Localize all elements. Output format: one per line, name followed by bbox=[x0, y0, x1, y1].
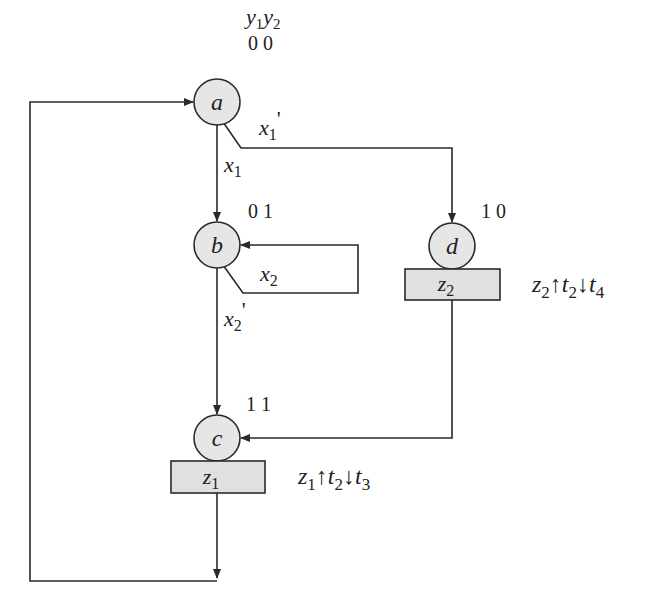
edge-d-to-c bbox=[241, 300, 452, 438]
state-code-header: y1y2 bbox=[244, 4, 281, 32]
label-a-to-d: x1' bbox=[258, 106, 281, 143]
state-code-d: 1 0 bbox=[481, 200, 506, 222]
state-a: a bbox=[194, 79, 240, 125]
state-label-c: c bbox=[212, 425, 223, 451]
state-code-a: 0 0 bbox=[248, 32, 273, 54]
state-label-b: b bbox=[211, 232, 223, 258]
label-a-to-b: x1 bbox=[223, 152, 242, 180]
annotation-c: z1↑t2↓t3 bbox=[297, 463, 370, 494]
annotation-d: z2↑t2↓t4 bbox=[531, 271, 605, 302]
label-b-self-loop: x2 bbox=[259, 261, 278, 289]
edge-b-self-loop bbox=[223, 245, 358, 293]
state-b: b bbox=[194, 222, 240, 268]
asm-diagram: y1y2 0 0 0 1 1 1 1 0 a b c d bbox=[0, 0, 653, 607]
state-label-d: d bbox=[446, 233, 459, 259]
state-c: c bbox=[194, 415, 240, 461]
edge-c-to-a bbox=[30, 102, 217, 581]
state-label-a: a bbox=[211, 89, 223, 115]
output-box-z1: z1 bbox=[171, 461, 265, 493]
state-d: d bbox=[429, 223, 475, 269]
state-code-c: 1 1 bbox=[246, 393, 271, 415]
output-box-z2: z2 bbox=[405, 269, 500, 300]
label-b-to-c: x2' bbox=[223, 297, 246, 334]
state-code-b: 0 1 bbox=[248, 200, 273, 222]
